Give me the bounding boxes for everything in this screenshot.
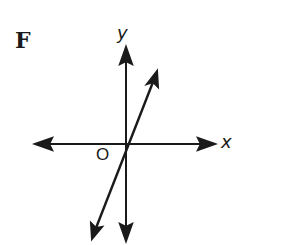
y-axis-up-arrow-icon	[120, 47, 132, 64]
coordinate-graph	[0, 0, 299, 245]
graph-line	[96, 82, 153, 228]
x-axis-left-arrow-icon	[35, 138, 52, 150]
x-axis-right-arrow-icon	[198, 138, 215, 150]
y-axis-down-arrow-icon	[120, 224, 132, 241]
